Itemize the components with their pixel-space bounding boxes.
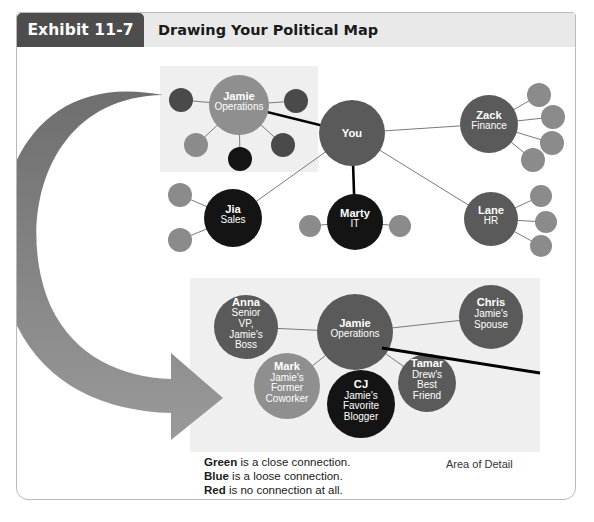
node-sublabel-line: Jamie's (270, 372, 304, 383)
exhibit-title: Drawing Your Political Map (158, 13, 378, 47)
map-node-zack: ZackFinance (460, 95, 518, 153)
map-node-mark: MarkJamie'sFormerCoworker (254, 353, 320, 419)
node-sublabel-line: VP, (239, 318, 254, 329)
satellite-node (541, 105, 565, 129)
satellite-node (271, 133, 295, 157)
satellite-node (284, 89, 308, 113)
map-node-chris: ChrisJamie'sSpouse (459, 285, 523, 349)
map-node-lane: LaneHR (464, 192, 518, 246)
node-sublabel-line: Operations (331, 328, 380, 339)
node-name-label: Jamie (223, 90, 255, 102)
area-of-detail-label: Area of Detail (446, 458, 513, 470)
map-node-jamie_d: JamieOperations (317, 294, 393, 370)
map-node-marty: MartyIT (327, 194, 383, 250)
satellite-node (184, 133, 208, 157)
satellite-node (540, 131, 564, 155)
node-sublabel-line: Friend (413, 390, 441, 401)
node-sublabel-line: Former (271, 382, 304, 393)
legend-text-red: is no connection at all. (226, 484, 343, 496)
satellite-node (228, 147, 252, 171)
satellite-node (521, 148, 545, 172)
node-sublabel-line: Jamie's (344, 390, 378, 401)
legend-text-green: is a close connection. (237, 456, 350, 468)
node-sublabel-line: Coworker (266, 393, 309, 404)
map-node-cj: CJJamie'sFavoriteBlogger (327, 370, 395, 438)
node-sublabel-line: Senior (232, 307, 262, 318)
diagram-canvas: YouJamieOperationsZackFinanceLaneHRMarty… (17, 47, 575, 499)
node-name-label: Chris (477, 296, 506, 308)
node-sublabel-line: Drew's (412, 369, 442, 380)
node-sublabel-line: Sales (220, 214, 245, 225)
map-node-tamar: TamarDrew'sBestFriend (398, 354, 456, 412)
node-sublabel-line: Boss (235, 339, 257, 350)
legend: Green is a close connection. Blue is a l… (204, 455, 350, 498)
satellite-node (168, 183, 192, 207)
node-name-label: Zack (476, 109, 502, 121)
map-node-jia: JiaSales (204, 189, 262, 247)
node-sublabel-line: Operations (215, 101, 264, 112)
satellite-node (530, 235, 552, 257)
satellite-node (527, 83, 551, 107)
node-sublabel-line: Blogger (344, 411, 379, 422)
satellite-node (299, 215, 321, 237)
node-name-label: You (342, 127, 362, 139)
map-node-anna: AnnaSeniorVP,Jamie'sBoss (214, 295, 278, 359)
node-sublabel-line: Jamie's (229, 329, 263, 340)
node-name-label: Jamie (339, 317, 371, 329)
satellite-node (389, 215, 411, 237)
node-name-label: CJ (354, 378, 368, 390)
node-sublabel-line: HR (484, 215, 498, 226)
satellite-node (168, 228, 192, 252)
legend-line-red: Red is no connection at all. (204, 483, 350, 497)
node-sublabel-line: Best (417, 379, 437, 390)
node-name-label: Tamar (411, 357, 444, 369)
node-sublabel-line: Spouse (474, 319, 508, 330)
legend-text-blue: is a loose connection. (229, 470, 343, 482)
node-name-label: Marty (340, 207, 371, 219)
legend-line-blue: Blue is a loose connection. (204, 469, 350, 483)
node-name-label: Anna (232, 296, 261, 308)
node-name-label: Jia (225, 203, 241, 215)
legend-line-green: Green is a close connection. (204, 455, 350, 469)
political-map-diagram: YouJamieOperationsZackFinanceLaneHRMarty… (17, 47, 575, 499)
node-sublabel-line: Favorite (343, 400, 380, 411)
exhibit-number-tab: Exhibit 11-7 (17, 13, 144, 47)
map-node-jamie: JamieOperations (209, 75, 269, 135)
map-node-you: You (319, 100, 385, 166)
satellite-node (169, 88, 193, 112)
legend-key-blue: Blue (204, 470, 229, 482)
node-sublabel-line: Jamie's (474, 308, 508, 319)
satellite-node (535, 211, 557, 233)
exhibit-container: Exhibit 11-7 Drawing Your Political Map … (0, 0, 594, 522)
legend-key-red: Red (204, 484, 226, 496)
legend-key-green: Green (204, 456, 237, 468)
satellite-node (530, 185, 552, 207)
node-sublabel-line: IT (351, 218, 360, 229)
exhibit-number-label: Exhibit 11-7 (27, 21, 133, 39)
node-name-label: Mark (274, 360, 301, 372)
node-name-label: Lane (478, 204, 504, 216)
node-sublabel-line: Finance (471, 120, 507, 131)
